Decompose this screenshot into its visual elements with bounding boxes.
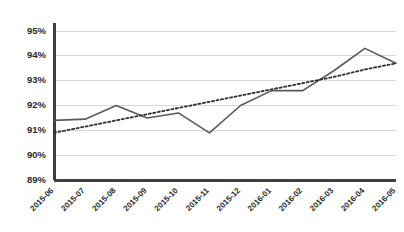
y-axis-tick-label: 95% bbox=[27, 25, 47, 36]
y-axis-tick-label: 90% bbox=[27, 149, 47, 160]
line-chart: 89%90%91%92%93%94%95% 2015-062015-072015… bbox=[0, 0, 404, 232]
chart-canvas: 89%90%91%92%93%94%95% 2015-062015-072015… bbox=[0, 0, 404, 232]
y-axis-tick-label: 89% bbox=[27, 174, 47, 185]
y-axis-tick-label: 93% bbox=[27, 74, 47, 85]
y-axis-tick-label: 92% bbox=[27, 99, 47, 110]
y-axis-tick-label: 91% bbox=[27, 124, 47, 135]
y-axis-tick-label: 94% bbox=[27, 49, 47, 60]
